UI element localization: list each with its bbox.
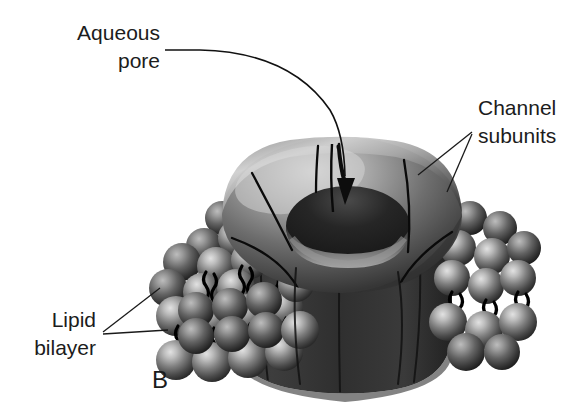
- channel-torus-ring: [222, 135, 462, 293]
- channel-bilayer-diagram: Aqueous pore Channel subunits Lipid bila…: [0, 0, 569, 414]
- panel-label: B: [152, 366, 168, 393]
- label-aqueous-pore-line1: Aqueous: [77, 21, 160, 44]
- figure-container: Aqueous pore Channel subunits Lipid bila…: [0, 0, 569, 414]
- label-aqueous-pore-line2: pore: [118, 49, 160, 72]
- label-channel-subunits-line1: Channel: [478, 96, 556, 119]
- label-lipid-bilayer-line2: bilayer: [34, 336, 96, 359]
- label-channel-subunits-line2: subunits: [478, 124, 556, 147]
- label-lipid-bilayer-line1: Lipid: [52, 308, 96, 331]
